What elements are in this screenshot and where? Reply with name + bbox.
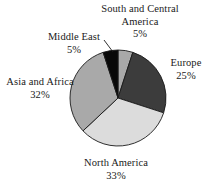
pie-label-south-and-central-america-name: South and Central America xyxy=(92,3,188,28)
pie-label-middle-east: Middle East 5% xyxy=(32,31,116,56)
pie-label-asia-and-africa-value: 32% xyxy=(2,89,78,102)
pie-label-middle-east-name: Middle East xyxy=(32,31,116,44)
pie-label-north-america: North America 33% xyxy=(68,157,164,182)
pie-label-north-america-name: North America xyxy=(68,157,164,170)
pie-label-europe: Europe 25% xyxy=(160,57,212,82)
pie-label-europe-value: 25% xyxy=(160,70,212,83)
pie-chart-figure: South and Central America 5% Middle East… xyxy=(0,0,217,195)
pie-label-north-america-value: 33% xyxy=(68,170,164,183)
pie-slice-group xyxy=(70,50,166,146)
pie-label-middle-east-value: 5% xyxy=(32,44,116,57)
pie-label-europe-name: Europe xyxy=(160,57,212,70)
pie-label-asia-and-africa: Asia and Africa 32% xyxy=(2,76,78,101)
pie-label-asia-and-africa-name: Asia and Africa xyxy=(2,76,78,89)
